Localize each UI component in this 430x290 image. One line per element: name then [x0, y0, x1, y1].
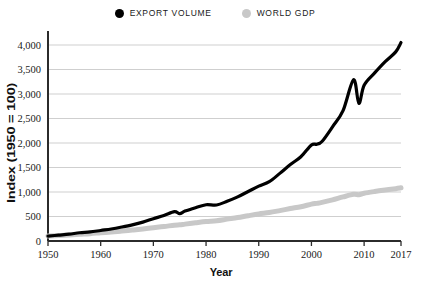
y-tick-label: 2,000: [17, 138, 41, 149]
x-tick-label: 1960: [90, 249, 111, 260]
x-axis-tick-labels: 19501960197019801990200020102017: [38, 249, 412, 260]
series-line-export-volume: [48, 43, 401, 237]
x-tick-label: 2017: [391, 249, 412, 260]
y-axis-tick-labels: 05001,0001,5002,0002,5003,0003,5004,000: [17, 40, 41, 247]
y-tick-label: 1,500: [17, 162, 41, 173]
y-tick-label: 3,000: [17, 89, 41, 100]
export-volume-gdp-chart: EXPORT VOLUME WORLD GDP 05001,0001,5002,…: [0, 0, 430, 290]
x-tick-label: 2000: [301, 249, 322, 260]
x-axis-title: Year: [210, 266, 233, 278]
x-tick-label: 1990: [248, 249, 269, 260]
x-tick-label: 1970: [143, 249, 164, 260]
x-tick-label: 1950: [38, 249, 59, 260]
plot-area: 05001,0001,5002,0002,5003,0003,5004,000 …: [0, 0, 430, 290]
gridlines: [48, 45, 401, 217]
y-tick-label: 0: [36, 236, 41, 247]
y-tick-label: 4,000: [17, 40, 41, 51]
y-tick-label: 1,000: [17, 187, 41, 198]
x-tick-label: 2010: [354, 249, 375, 260]
y-tick-label: 500: [25, 211, 41, 222]
series-lines: [48, 43, 401, 237]
x-tick-label: 1980: [196, 249, 217, 260]
y-axis-title: Index (1950 = 100): [5, 82, 17, 203]
y-tick-label: 2,500: [17, 113, 41, 124]
y-tick-label: 3,500: [17, 64, 41, 75]
